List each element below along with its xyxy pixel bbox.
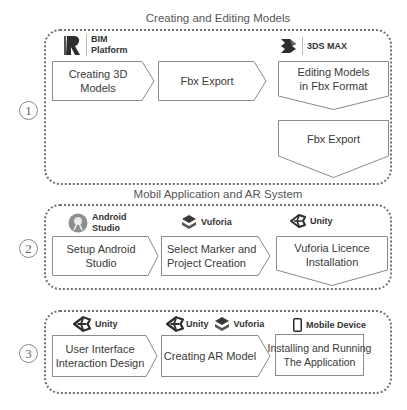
tool-label: Unity (310, 216, 333, 227)
tool-3ds-max: 3DS MAX (280, 37, 347, 55)
tool-label: 3DS MAX (307, 41, 347, 52)
step-setup-android-studio: Setup Android Studio (52, 236, 159, 276)
step-label: Models (69, 81, 128, 95)
tool-mobile-device: Mobile Device (293, 318, 366, 332)
tool-bim-platform: BIMPlatform (64, 34, 128, 56)
step-label: Select Marker and (167, 242, 256, 256)
tool-label: Unity (186, 319, 209, 330)
unity-icon (73, 316, 91, 332)
step-install-run: Installing and RunningThe Application (275, 334, 364, 376)
step-creating-ar-model: Creating AR Model (161, 335, 271, 377)
tool-label: Android (92, 212, 127, 223)
step-label: User Interface (56, 342, 145, 356)
android-studio-icon (68, 213, 88, 233)
step-label: Installing and Running (268, 341, 372, 355)
vuforia-icon (214, 316, 230, 332)
mobile-device-icon (293, 318, 302, 332)
step-label: Vuforia Licence (294, 241, 369, 255)
bim-platform-icon (64, 34, 82, 56)
section-2-title: Mobil Application and AR System (44, 188, 392, 200)
tool-label: Vuforia (201, 217, 232, 228)
3ds-max-icon (280, 37, 298, 55)
tool-label: Mobile Device (306, 320, 366, 331)
unity-icon (290, 214, 306, 228)
step-number-1: 1 (19, 101, 38, 120)
tool-label: BIM (91, 34, 128, 45)
step-label: The Application (268, 355, 372, 369)
tool-vuforia: Vuforia (181, 214, 232, 230)
tool-android-studio: AndroidStudio (68, 212, 127, 234)
step-editing-models: Editing Modelsin Fbx Format (278, 61, 389, 110)
step-label: Creating AR Model (164, 349, 256, 363)
tool-unity-vuforia: Unity Vuforia (166, 316, 264, 332)
step-vuforia-licence: Vuforia LicenceInstallation (276, 236, 388, 286)
step-select-marker: Select Marker andProject Creation (161, 236, 271, 276)
step-fbx-export: Fbx Export (158, 61, 267, 101)
step-number-3: 3 (19, 344, 38, 363)
tool-label: Unity (95, 319, 118, 330)
vuforia-icon (181, 214, 197, 230)
step-ui-design: User InterfaceInteraction Design (52, 335, 158, 377)
step-label: Installation (294, 255, 369, 269)
unity-icon (166, 316, 184, 332)
step-label: Editing Models (297, 65, 369, 79)
tool-unity-ui: Unity (73, 316, 118, 332)
step-label: in Fbx Format (297, 79, 369, 93)
section-1-title: Creating and Editing Models (44, 12, 392, 24)
step-label: Setup Android Studio (52, 242, 150, 270)
tool-unity: Unity (290, 214, 333, 228)
step-fbx-export-2: Fbx Export (278, 120, 389, 178)
tool-label: Platform (91, 45, 128, 56)
tool-label: Studio (92, 223, 127, 234)
tool-label: Vuforia (234, 319, 265, 330)
step-label: Fbx Export (180, 74, 233, 88)
step-label: Fbx Export (307, 132, 360, 146)
step-label: Creating 3D (69, 67, 128, 81)
step-label: Interaction Design (56, 356, 145, 370)
step-label: Project Creation (167, 256, 256, 270)
step-number-2: 2 (19, 239, 38, 258)
step-creating-3d-models: Creating 3DModels (52, 61, 155, 101)
